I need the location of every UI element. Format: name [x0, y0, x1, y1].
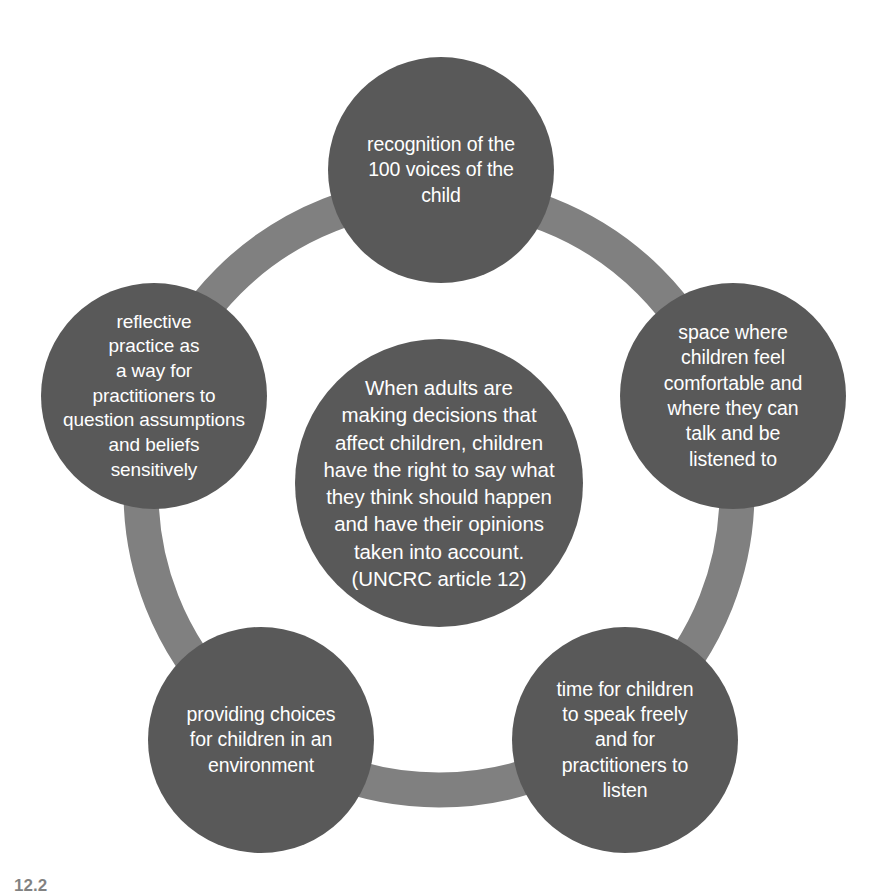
centre-node-label: When adults are making decisions that af… [295, 374, 583, 592]
node-providing-choices: providing choices for children in an env… [148, 627, 374, 853]
node-comfortable-space: space where children feel comfortable an… [620, 283, 846, 509]
centre-node: When adults are making decisions that af… [295, 339, 583, 627]
diagram-canvas: When adults are making decisions that af… [0, 0, 876, 893]
figure-caption: 12.2 [14, 877, 574, 893]
node-bottom-left-label: providing choices for children in an env… [148, 702, 374, 778]
node-right-label: space where children feel comfortable an… [620, 320, 846, 472]
node-recognition-of-voices: recognition of the 100 voices of the chi… [328, 57, 554, 283]
node-left-label: reflective practice as a way for practit… [41, 310, 267, 483]
node-top-label: recognition of the 100 voices of the chi… [328, 132, 554, 208]
node-bottom-right-label: time for children to speak freely and fo… [512, 677, 738, 804]
node-time-to-speak-freely: time for children to speak freely and fo… [512, 627, 738, 853]
node-reflective-practice: reflective practice as a way for practit… [41, 283, 267, 509]
